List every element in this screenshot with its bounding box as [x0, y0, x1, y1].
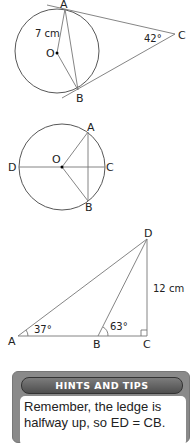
point-a-label: A — [60, 0, 68, 11]
angle-c-label: 42° — [144, 33, 162, 44]
fig3-point-a-label: A — [8, 335, 16, 348]
fig3-point-c-label: C — [143, 338, 151, 351]
fig3-point-b-label: B — [93, 338, 101, 351]
radius-label: 7 cm — [35, 28, 60, 39]
fig2-point-d-label: D — [8, 161, 16, 174]
hints-text: Remember, the ledge is halfway up, so ED… — [20, 396, 186, 446]
fig2-point-a-label: A — [87, 121, 95, 134]
height-label: 12 cm — [153, 283, 184, 294]
angle-a-label: 37° — [34, 324, 52, 335]
fig2-point-o-label: O — [52, 153, 61, 166]
point-c-label: C — [178, 29, 186, 42]
fig3-point-d-label: D — [144, 227, 152, 240]
point-o-label: O — [46, 47, 55, 60]
fig2-point-b-label: B — [85, 201, 93, 214]
figure-tangents-circle — [15, 5, 175, 98]
fig2-point-c-label: C — [106, 161, 114, 174]
point-b-label: B — [76, 92, 84, 105]
angle-b-label: 63° — [110, 321, 128, 332]
hints-title: HINTS AND TIPS — [21, 377, 183, 394]
hints-box: HINTS AND TIPS Remember, the ledge is ha… — [12, 371, 190, 443]
